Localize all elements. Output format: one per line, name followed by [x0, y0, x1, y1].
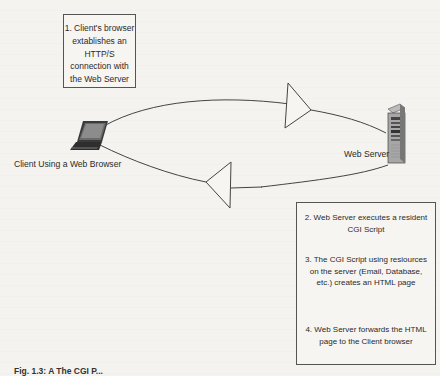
server-steps-box: 2. Web Server executes a resident CGI Sc… — [296, 202, 436, 365]
request-curve — [104, 100, 290, 126]
step4-text: 4. Web Server forwards the HTML page to … — [303, 324, 429, 347]
step1-box: 1. Client's browser extablishes an HTTP/… — [63, 14, 136, 88]
step3-text: 3. The CGI Script using resiources on th… — [303, 254, 429, 289]
step2-text: 2. Web Server executes a resident CGI Sc… — [303, 212, 429, 235]
response-curve — [261, 165, 388, 187]
server-label: Web Server — [344, 149, 389, 159]
client-label: Client Using a Web Browser — [14, 159, 121, 169]
server-tower-icon — [388, 104, 405, 163]
arrow-left-icon — [206, 162, 231, 208]
figure-caption: Fig. 1.3: A The CGI P... — [14, 366, 103, 376]
arrow-right-icon — [285, 83, 311, 128]
step1-text: 1. Client's browser extablishes an HTTP/… — [65, 23, 135, 84]
